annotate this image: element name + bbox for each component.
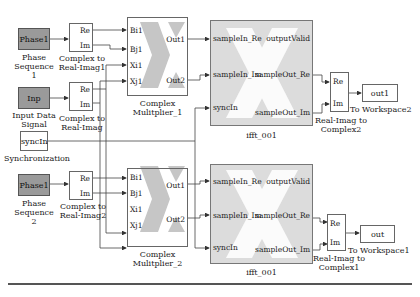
ifft-001-bottom-caption: ifft_001 (210, 268, 313, 277)
real-imag-to-complex1-caption: Real-Imag toComplex1 (312, 254, 366, 272)
to-workspace1-caption: To Workspace1 (348, 246, 418, 255)
complex-multiplier-2-block[interactable]: Bi1 Bj1 Xi1 Xj1 Out1 Out2 (127, 168, 188, 247)
complex-to-real-imag-caption: Complex toReal-Imag (56, 114, 108, 132)
syncin-block[interactable]: syncIn (20, 131, 48, 151)
complex-to-real-imag1-block[interactable]: Re Im (69, 23, 93, 52)
complex-to-real-imag2-block[interactable]: Re Im (69, 171, 93, 200)
complex-to-real-imag2-caption: Complex toReal-Imag2 (56, 202, 110, 220)
phase-sequence-1-block[interactable]: Phase1 (18, 28, 50, 50)
complex-multiplier-2-caption: ComplexMulitplier_2 (127, 250, 188, 268)
bottom-divider (8, 283, 412, 285)
input-data-signal-caption: Input DataSignal (6, 111, 62, 129)
simulink-diagram: Phase1 PhaseSequence1 Inp Input DataSign… (0, 0, 420, 297)
phase-sequence-2-block[interactable]: Phase1 (18, 174, 50, 196)
ifft-001-bottom-ports: sampleIn_Re sampleIn_Im syncIn outputVal… (210, 164, 313, 264)
real-imag-to-complex2-block[interactable]: Re Im (330, 72, 349, 112)
input-data-signal-block[interactable]: Inp (18, 87, 50, 109)
complex-multiplier-1-block[interactable]: Bi1 Bj1 Xi1 Xj1 Out1 Out2 (127, 17, 188, 96)
phase-sequence-2-caption: PhaseSequence2 (8, 199, 60, 226)
complex-multiplier-1-caption: ComplexMulitplier_1 (127, 99, 188, 117)
to-workspace2-caption: To Workspace2 (350, 105, 420, 114)
complex-to-real-imag1-caption: Complex toReal-Imag1 (56, 54, 108, 72)
to-workspace2-block[interactable]: out1 (362, 84, 398, 102)
ifft-001-top-caption: ifft_001 (210, 131, 313, 140)
complex-to-real-imag-block[interactable]: Re Im (69, 82, 93, 111)
to-workspace1-block[interactable]: out (360, 225, 395, 243)
ifft-001-top-ports: sampleIn_Re sampleIn_Im syncIn outputVal… (210, 20, 313, 126)
real-imag-to-complex1-block[interactable]: Re Im (327, 214, 346, 251)
real-imag-to-complex2-caption: Real-Imag toComplex2 (314, 116, 368, 134)
phase-sequence-1-caption: PhaseSequence1 (8, 53, 60, 80)
synchronization-caption: Synchronization (2, 154, 72, 163)
